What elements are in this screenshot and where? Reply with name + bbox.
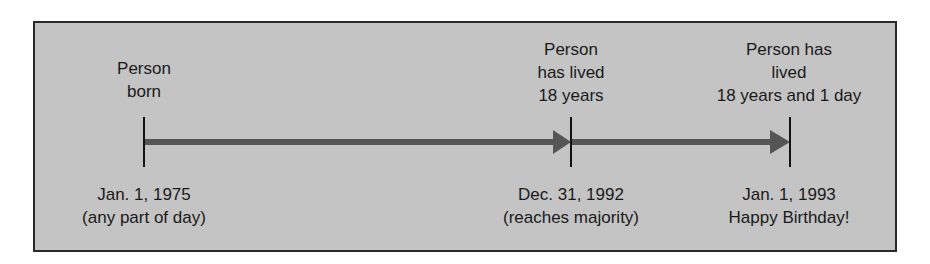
arrow-majority-to-birthday [572,130,790,154]
label-line: Person [117,57,171,80]
label-born-top: Person born [117,57,171,103]
label-line: 18 years and 1 day [717,84,862,107]
arrow-shaft [572,139,772,145]
label-majority-bottom: Dec. 31, 1992 (reaches majority) [503,183,639,229]
arrow-born-to-majority [145,130,571,154]
label-line: Person [537,38,604,61]
date-label: Jan. 1, 1993 [729,183,850,206]
label-majority-top: Person has lived 18 years [537,38,604,107]
date-label: Jan. 1, 1975 [82,183,206,206]
date-note: (any part of day) [82,206,206,229]
label-birthday-bottom: Jan. 1, 1993 Happy Birthday! [729,183,850,229]
label-line: 18 years [537,84,604,107]
label-born-bottom: Jan. 1, 1975 (any part of day) [82,183,206,229]
date-label: Dec. 31, 1992 [503,183,639,206]
label-birthday-top: Person has lived 18 years and 1 day [717,38,862,107]
label-line: Person has [717,38,862,61]
arrowhead-icon [553,130,571,154]
date-note: Happy Birthday! [729,206,850,229]
arrow-shaft [145,139,555,145]
date-note: (reaches majority) [503,206,639,229]
label-line: born [117,80,171,103]
arrowhead-icon [770,130,790,154]
label-line: lived [717,61,862,84]
label-line: has lived [537,61,604,84]
